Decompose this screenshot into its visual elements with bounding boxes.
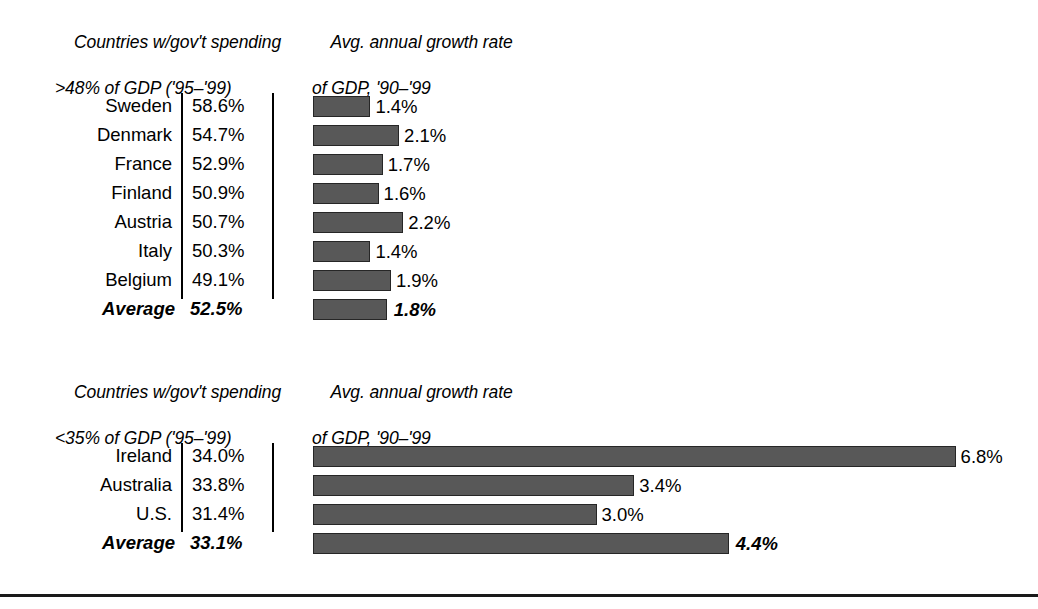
country-label: France <box>114 150 172 179</box>
average-growth-bar <box>313 299 387 320</box>
bar-group: 1.4% <box>313 96 418 117</box>
average-growth-value-label: 1.8% <box>394 299 436 320</box>
bar-group: 2.1% <box>313 125 446 146</box>
country-label: Finland <box>111 179 172 208</box>
country-label: Denmark <box>97 121 172 150</box>
country-label: Ireland <box>115 442 172 471</box>
average-growth-bar <box>313 533 729 554</box>
bar-group: 1.8% <box>313 299 436 320</box>
spending-value: 49.1% <box>192 266 244 295</box>
growth-value-label: 3.4% <box>639 475 681 496</box>
bar-group: 6.8% <box>313 446 1003 467</box>
bar-group: 1.4% <box>313 241 418 262</box>
table-row: Australia 33.8% 3.4% <box>0 471 1038 500</box>
country-label: Australia <box>100 471 172 500</box>
growth-value-label: 1.9% <box>396 270 438 291</box>
bottom-rule <box>0 594 1038 597</box>
growth-bar <box>313 212 403 233</box>
average-spending-value: 33.1% <box>190 529 242 558</box>
spending-value: 33.8% <box>192 471 244 500</box>
average-label: Average <box>102 295 175 324</box>
table-row: Belgium 49.1% 1.9% <box>0 266 1038 295</box>
table-row: Finland 50.9% 1.6% <box>0 179 1038 208</box>
table-row-average: Average 52.5% 1.8% <box>0 295 1038 324</box>
table-row-average: Average 33.1% 4.4% <box>0 529 1038 558</box>
section-1-right-header-line1: Avg. annual growth rate <box>330 32 512 52</box>
bar-group: 1.7% <box>313 154 430 175</box>
growth-bar <box>313 475 634 496</box>
average-growth-value-label: 4.4% <box>736 533 778 554</box>
country-label: Belgium <box>105 266 172 295</box>
country-label: U.S. <box>136 500 172 529</box>
growth-value-label: 2.1% <box>404 125 446 146</box>
table-row: Sweden 58.6% 1.4% <box>0 92 1038 121</box>
spending-value: 31.4% <box>192 500 244 529</box>
growth-value-label: 6.8% <box>961 446 1003 467</box>
average-spending-value: 52.5% <box>190 295 242 324</box>
spending-value: 54.7% <box>192 121 244 150</box>
average-label: Average <box>102 529 175 558</box>
table-row: Austria 50.7% 2.2% <box>0 208 1038 237</box>
country-label: Austria <box>114 208 172 237</box>
table-row: Italy 50.3% 1.4% <box>0 237 1038 266</box>
table-row: Denmark 54.7% 2.1% <box>0 121 1038 150</box>
growth-bar <box>313 154 383 175</box>
section-2-rows: Ireland 34.0% 6.8% Australia 33.8% 3.4% … <box>0 442 1038 558</box>
section-2-right-header-line1: Avg. annual growth rate <box>330 382 512 402</box>
bar-group: 3.0% <box>313 504 644 525</box>
table-row: U.S. 31.4% 3.0% <box>0 500 1038 529</box>
spending-value: 52.9% <box>192 150 244 179</box>
section-1-left-header-line1: Countries w/gov't spending <box>74 32 281 52</box>
growth-value-label: 1.7% <box>388 154 430 175</box>
table-row: Ireland 34.0% 6.8% <box>0 442 1038 471</box>
spending-value: 50.7% <box>192 208 244 237</box>
growth-bar <box>313 270 391 291</box>
bar-group: 3.4% <box>313 475 681 496</box>
country-label: Italy <box>138 237 172 266</box>
spending-value: 50.3% <box>192 237 244 266</box>
section-1-rows: Sweden 58.6% 1.4% Denmark 54.7% 2.1% Fra… <box>0 92 1038 324</box>
growth-value-label: 1.6% <box>384 183 426 204</box>
growth-bar <box>313 241 370 262</box>
growth-bar <box>313 446 956 467</box>
growth-bar <box>313 125 399 146</box>
table-row: France 52.9% 1.7% <box>0 150 1038 179</box>
spending-value: 50.9% <box>192 179 244 208</box>
section-2-left-header-line1: Countries w/gov't spending <box>74 382 281 402</box>
bar-chart-figure: Countries w/gov't spending >48% of GDP (… <box>0 0 1038 609</box>
growth-bar <box>313 504 597 525</box>
growth-value-label: 1.4% <box>375 96 417 117</box>
growth-value-label: 2.2% <box>408 212 450 233</box>
bar-group: 1.6% <box>313 183 426 204</box>
growth-value-label: 1.4% <box>375 241 417 262</box>
bar-group: 1.9% <box>313 270 438 291</box>
growth-bar <box>313 183 379 204</box>
growth-value-label: 3.0% <box>602 504 644 525</box>
spending-value: 58.6% <box>192 92 244 121</box>
growth-bar <box>313 96 370 117</box>
country-label: Sweden <box>105 92 172 121</box>
spending-value: 34.0% <box>192 442 244 471</box>
bar-group: 4.4% <box>313 533 778 554</box>
bar-group: 2.2% <box>313 212 450 233</box>
